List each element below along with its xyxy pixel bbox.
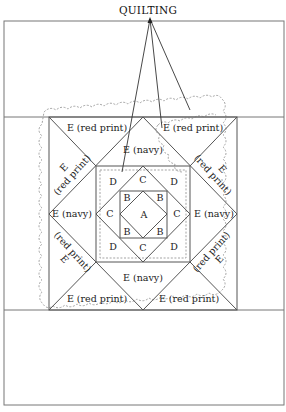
piece-e-red-print-top-left: E (red print) bbox=[67, 122, 127, 133]
piece-a-center: A bbox=[140, 209, 148, 220]
quilting-pointer-3 bbox=[150, 19, 190, 110]
piece-c-right: C bbox=[173, 208, 180, 219]
piece-e-lower-left-red-print: (red print) bbox=[52, 229, 94, 274]
piece-e-navy-left: E (navy) bbox=[52, 208, 92, 219]
piece-b-top-right: B bbox=[157, 192, 164, 203]
piece-e-red-print-bottom-right: E (red print) bbox=[159, 293, 219, 304]
quilting-arrowhead bbox=[148, 17, 153, 23]
piece-e-navy-right: E (navy) bbox=[194, 208, 234, 219]
quilt-block-diagram: QUILTING E (red print) E (red print) E (… bbox=[0, 0, 286, 412]
piece-b-bottom-left: B bbox=[124, 226, 131, 237]
piece-e-red-print-bottom-left: E (red print) bbox=[67, 293, 127, 304]
piece-e-navy-bottom: E (navy) bbox=[123, 272, 163, 283]
piece-d-top-right: D bbox=[170, 176, 178, 187]
piece-d-top-left: D bbox=[109, 176, 117, 187]
piece-e-lower-left-letter: E bbox=[58, 253, 71, 266]
piece-c-top: C bbox=[139, 174, 146, 185]
quilting-pointer-2 bbox=[150, 19, 162, 128]
piece-c-bottom: C bbox=[139, 242, 146, 253]
piece-c-left: C bbox=[106, 208, 113, 219]
piece-e-red-print-top-right: E (red print) bbox=[163, 122, 223, 133]
piece-e-navy-top: E (navy) bbox=[123, 144, 163, 155]
piece-d-bottom-right: D bbox=[170, 241, 178, 252]
quilting-label: QUILTING bbox=[119, 4, 177, 16]
piece-d-bottom-left: D bbox=[109, 241, 117, 252]
piece-b-top-left: B bbox=[124, 192, 131, 203]
piece-b-bottom-right: B bbox=[157, 226, 164, 237]
